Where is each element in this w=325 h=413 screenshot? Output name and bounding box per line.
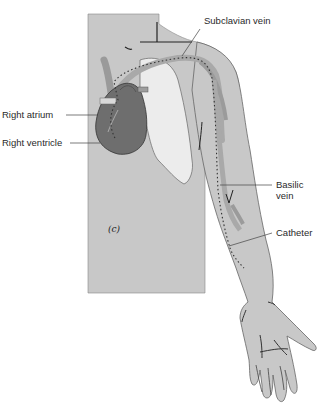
label-catheter: Catheter	[276, 227, 312, 238]
label-basilic-line2: vein	[276, 190, 303, 201]
arm	[192, 42, 316, 402]
label-subclavian-vein: Subclavian vein	[204, 15, 271, 26]
label-right-ventricle: Right ventricle	[2, 137, 62, 148]
panel-mark: (c)	[108, 224, 120, 234]
label-basilic-vein: Basilic vein	[276, 179, 303, 201]
label-right-atrium: Right atrium	[2, 109, 53, 120]
anatomy-diagram	[0, 0, 325, 413]
label-basilic-line1: Basilic	[276, 179, 303, 190]
